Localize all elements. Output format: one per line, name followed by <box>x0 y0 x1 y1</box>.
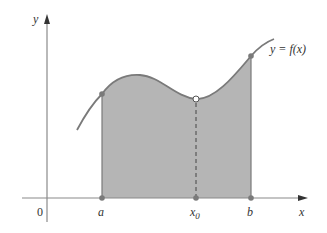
point-a-axis <box>99 195 105 201</box>
x0-label-subscript: 0 <box>195 211 200 221</box>
x0-label: x0 <box>189 205 200 221</box>
point-fa <box>99 91 105 97</box>
y-axis-label: y <box>32 12 39 26</box>
point-fx0-open <box>193 96 199 102</box>
y-axis-arrow-icon <box>44 14 50 24</box>
point-x0-axis <box>193 195 199 201</box>
area-under-curve-diagram: y x 0 a x0 b y = f(x) <box>0 0 327 233</box>
origin-label: 0 <box>37 205 43 219</box>
a-label: a <box>98 205 104 219</box>
point-fb <box>248 53 254 59</box>
x-axis-label: x <box>298 205 305 219</box>
x-axis-arrow-icon <box>298 195 308 201</box>
b-label: b <box>247 205 253 219</box>
curve-label: y = f(x) <box>269 42 306 56</box>
point-b-axis <box>248 195 254 201</box>
